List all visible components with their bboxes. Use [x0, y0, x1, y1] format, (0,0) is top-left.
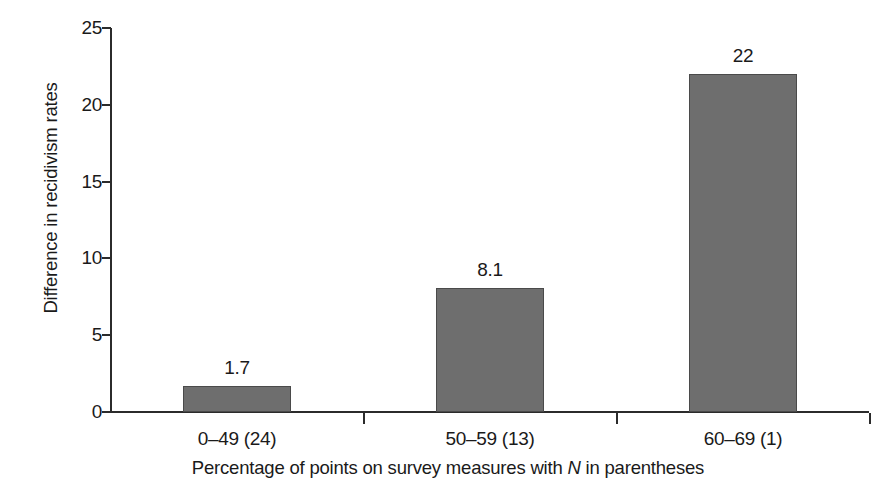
bar-value-label: 8.1 — [430, 260, 550, 279]
y-tick-label: 15 — [58, 172, 102, 191]
x-category-label: 50–59 (13) — [400, 429, 580, 448]
bar-value-label: 22 — [683, 46, 803, 65]
bar — [689, 74, 797, 412]
x-axis-title-italic-n: N — [567, 457, 580, 478]
y-tick-mark — [102, 411, 111, 413]
bar-chart: Difference in recidivism rates 051015202… — [0, 0, 896, 484]
y-axis-ticks: 0510152025 — [54, 0, 102, 484]
y-tick-label: 20 — [58, 95, 102, 114]
y-tick-label: 0 — [58, 402, 102, 421]
x-axis-title-before: Percentage of points on survey measures … — [192, 457, 568, 478]
y-tick-mark — [102, 104, 111, 106]
x-category-label: 60–69 (1) — [653, 429, 833, 448]
y-tick-mark — [102, 334, 111, 336]
y-tick-label: 10 — [58, 248, 102, 267]
y-tick-mark — [102, 181, 111, 183]
y-axis-line — [110, 28, 112, 413]
x-category-label: 0–49 (24) — [147, 429, 327, 448]
y-tick-mark — [102, 27, 111, 29]
bar — [436, 288, 544, 412]
x-axis-title: Percentage of points on survey measures … — [0, 458, 896, 478]
x-axis-title-after: in parentheses — [581, 457, 705, 478]
y-tick-label: 25 — [58, 18, 102, 37]
x-tick-mark — [363, 413, 365, 424]
bar — [183, 386, 291, 412]
x-tick-mark — [869, 413, 871, 424]
y-tick-label: 5 — [58, 325, 102, 344]
bar-value-label: 1.7 — [177, 358, 297, 377]
y-tick-mark — [102, 257, 111, 259]
x-tick-mark — [616, 413, 618, 424]
